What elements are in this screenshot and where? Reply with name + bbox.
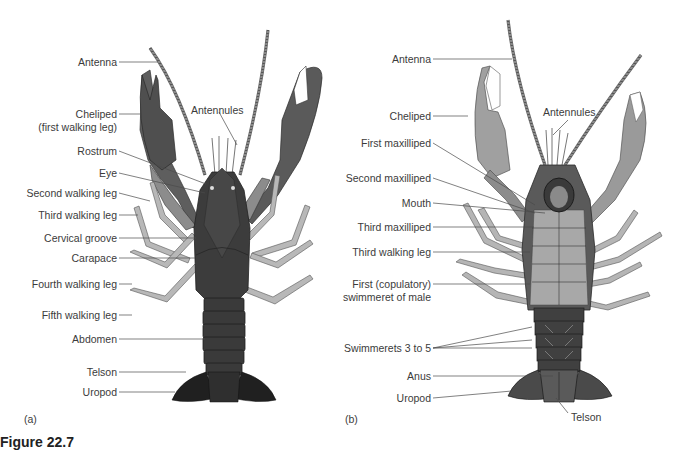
label-second-walking-leg: Second walking leg bbox=[27, 187, 117, 199]
panel-tag-a: (a) bbox=[24, 413, 37, 425]
label-antenna-a: Antenna bbox=[78, 56, 117, 68]
dorsal-crayfish bbox=[130, 30, 322, 402]
label-swimmerets-3-5: Swimmerets 3 to 5 bbox=[344, 342, 431, 354]
label-abdomen: Abdomen bbox=[72, 333, 117, 345]
label-telson-b: Telson bbox=[571, 411, 601, 423]
label-cheliped-a: Cheliped bbox=[76, 108, 117, 120]
label-third-walking-leg-b: Third walking leg bbox=[352, 246, 431, 258]
label-antenna-b: Antenna bbox=[392, 53, 431, 65]
label-eye: Eye bbox=[99, 167, 117, 179]
label-carapace: Carapace bbox=[71, 252, 117, 264]
label-rostrum: Rostrum bbox=[77, 145, 117, 157]
label-uropod-a: Uropod bbox=[83, 386, 117, 398]
label-second-maxilliped: Second maxilliped bbox=[346, 172, 431, 184]
ventral-crayfish bbox=[456, 20, 662, 402]
label-antennules-a: Antennules bbox=[191, 104, 244, 116]
label-first-maxilliped: First maxilliped bbox=[361, 137, 431, 149]
label-mouth: Mouth bbox=[402, 197, 431, 209]
figure-caption-title: Figure 22.7 bbox=[0, 434, 74, 450]
label-first-swimmeret: First (copulatory) bbox=[352, 278, 431, 290]
panel-tag-b: (b) bbox=[345, 413, 358, 425]
label-cheliped-note-a: (first walking leg) bbox=[38, 121, 117, 133]
label-antennules-b: Antennules bbox=[543, 106, 596, 118]
label-anus: Anus bbox=[407, 370, 431, 382]
label-telson-a: Telson bbox=[87, 366, 117, 378]
label-third-maxilliped: Third maxilliped bbox=[357, 221, 431, 233]
label-uropod-b: Uropod bbox=[397, 392, 431, 404]
label-third-walking-leg-a: Third walking leg bbox=[38, 209, 117, 221]
label-fifth-walking-leg: Fifth walking leg bbox=[42, 309, 117, 321]
label-fourth-walking-leg: Fourth walking leg bbox=[32, 278, 117, 290]
label-first-swimmeret-note: swimmeret of male bbox=[343, 291, 431, 303]
label-cheliped-b: Cheliped bbox=[390, 110, 431, 122]
label-cervical-groove: Cervical groove bbox=[44, 232, 117, 244]
